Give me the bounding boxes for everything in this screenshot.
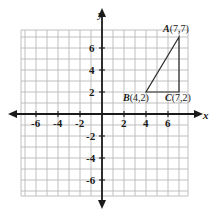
x-axis-left-arrow <box>8 110 17 118</box>
point-b-name: B <box>123 92 130 103</box>
x-axis-label: x <box>203 110 209 121</box>
axis-arrowheads <box>8 8 203 209</box>
axis-lines <box>13 13 197 204</box>
y-tick-label--4: -4 <box>86 153 95 164</box>
y-tick-label-6: 6 <box>89 43 95 54</box>
x-tick-label-2: 2 <box>121 118 127 129</box>
y-axis-label: y <box>98 9 103 20</box>
x-axis-right-arrow <box>194 110 203 118</box>
y-axis-down-arrow <box>98 200 106 209</box>
point-a-coords: (7,7) <box>170 23 189 34</box>
x-tick-label-6: 6 <box>165 118 171 129</box>
grid-lines <box>21 30 188 196</box>
y-tick-label-2: 2 <box>89 87 95 98</box>
x-tick-label--4: -4 <box>53 118 62 129</box>
point-label-b: B(4,2) <box>123 93 149 103</box>
point-c-name: C <box>165 92 172 103</box>
y-tick-label--2: -2 <box>86 131 95 142</box>
point-c-coords: (7,2) <box>172 92 191 103</box>
y-tick-label-4: 4 <box>89 65 95 76</box>
x-tick-label-4: 4 <box>143 118 149 129</box>
point-a-name: A <box>163 23 170 34</box>
x-tick-label--2: -2 <box>75 118 84 129</box>
y-tick-label--6: -6 <box>86 175 95 186</box>
point-label-a: A(7,7) <box>163 24 189 34</box>
triangle-abc <box>146 37 179 92</box>
point-label-c: C(7,2) <box>165 93 191 103</box>
coordinate-plane-figure: -6 -4 -2 2 4 6 6 4 2 -2 -4 -6 y x A(7,7)… <box>0 0 217 217</box>
x-tick-label--6: -6 <box>31 118 40 129</box>
point-b-coords: (4,2) <box>130 92 149 103</box>
